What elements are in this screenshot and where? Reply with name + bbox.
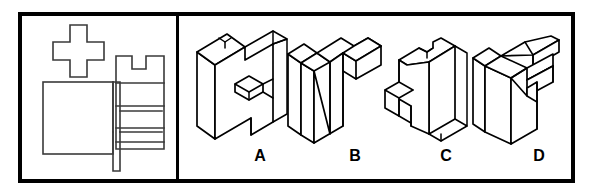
- figure-d: [467, 22, 567, 144]
- isometric-options-panel: A: [179, 16, 575, 179]
- figure-a-label: A: [245, 147, 275, 165]
- figure-c-label: C: [431, 147, 461, 165]
- projection-lines: [120, 111, 162, 132]
- figure-a: [191, 22, 291, 144]
- orthographic-views-drawing: [22, 16, 176, 179]
- figure-c-drawing: [375, 22, 475, 144]
- isometric-solid-b: [288, 38, 381, 143]
- isometric-solid-c: [385, 38, 467, 141]
- question-figure: A: [0, 0, 593, 195]
- top-view: [53, 25, 104, 77]
- figure-c: [375, 22, 475, 144]
- figure-b-label: B: [340, 147, 370, 165]
- figure-b-drawing: [284, 22, 389, 144]
- figure-b: [284, 22, 389, 144]
- figure-d-label: D: [524, 147, 554, 165]
- figure-d-drawing: [467, 22, 567, 144]
- figure-frame: A: [18, 12, 575, 183]
- figure-a-drawing: [191, 22, 291, 144]
- side-view: [116, 56, 164, 149]
- isometric-solid-d: [473, 36, 559, 144]
- front-view: [43, 82, 120, 171]
- orthographic-views-panel: [22, 16, 176, 179]
- isometric-solid-a: [197, 31, 287, 139]
